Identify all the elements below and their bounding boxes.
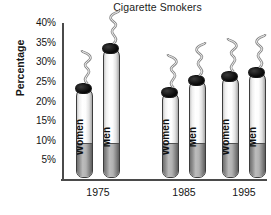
- y-tick-label: 10%: [36, 136, 56, 146]
- smoke-icon: [247, 34, 271, 68]
- cigarette-lit-tip: [248, 67, 265, 78]
- cigarette-lit-tip: [188, 75, 205, 86]
- cigarette-body: Men: [103, 48, 120, 178]
- series-label: Men: [103, 127, 112, 147]
- y-axis-line: [62, 23, 64, 180]
- chart-title: Cigarette Smokers: [0, 1, 271, 13]
- y-tick-label: 25%: [36, 77, 56, 87]
- bar-women-1975: Women: [76, 88, 93, 178]
- cigarette-body: Men: [189, 80, 206, 178]
- series-label: Men: [249, 127, 258, 147]
- y-tick-label: 15%: [36, 116, 56, 126]
- cigarette-filter: [250, 143, 265, 177]
- x-tick-label: 1975: [86, 186, 109, 198]
- series-label: Women: [76, 119, 85, 155]
- chart-root: Cigarette Smokers Percentage 40%35%30%25…: [0, 0, 271, 215]
- bar-women-1995: Women: [222, 76, 239, 178]
- cigarette-lit-tip: [161, 87, 178, 98]
- cigarette-lit-tip: [102, 43, 119, 54]
- cigarette-filter: [190, 143, 205, 177]
- cigarette-lit-tip: [221, 71, 238, 82]
- plot-area: WomenMenWomenMenWomenMen: [62, 23, 267, 180]
- bar-group: WomenMen: [162, 21, 206, 178]
- bar-men-1985: Men: [189, 80, 206, 178]
- bar-group: WomenMen: [222, 21, 266, 178]
- y-tick-label: 5%: [42, 155, 56, 165]
- x-axis-line: [61, 179, 267, 181]
- smoke-icon: [101, 10, 127, 44]
- bar-men-1995: Men: [249, 72, 266, 178]
- cigarette-body: Women: [162, 92, 179, 178]
- series-label: Women: [162, 119, 171, 155]
- smoke-icon: [160, 54, 186, 88]
- bar-group: WomenMen: [76, 21, 120, 178]
- smoke-icon: [74, 50, 100, 84]
- bar-women-1985: Women: [162, 92, 179, 178]
- x-tick-label: 1985: [172, 186, 195, 198]
- bar-men-1975: Men: [103, 48, 120, 178]
- cigarette-body: Men: [249, 72, 266, 178]
- smoke-icon: [187, 42, 213, 76]
- cigarette-body: Women: [76, 88, 93, 178]
- x-tick-label: 1995: [232, 186, 255, 198]
- cigarette-lit-tip: [75, 83, 92, 94]
- y-tick-label: 20%: [36, 97, 56, 107]
- cigarette-body: Women: [222, 76, 239, 178]
- y-axis-tick-labels: 40%35%30%25%20%15%10%5%: [0, 23, 60, 180]
- series-label: Men: [189, 127, 198, 147]
- series-label: Women: [222, 119, 231, 155]
- y-tick-label: 30%: [36, 57, 56, 67]
- cigarette-filter: [104, 143, 119, 177]
- y-tick-label: 35%: [36, 38, 56, 48]
- y-tick-label: 40%: [36, 18, 56, 28]
- x-axis-tick-labels: 197519851995: [62, 186, 267, 202]
- smoke-icon: [220, 38, 246, 72]
